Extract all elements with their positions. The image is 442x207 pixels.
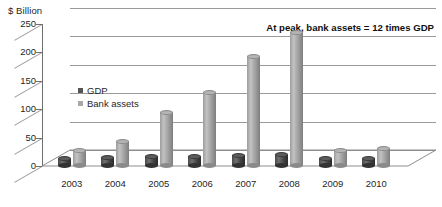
x-label-2006: 2006 — [182, 178, 222, 189]
bar-bank-assets-2003 — [73, 150, 86, 166]
bar-foot — [290, 163, 303, 168]
bar-bank-assets-2006 — [203, 92, 216, 166]
bar-foot — [116, 163, 129, 168]
bar-foot — [73, 163, 86, 168]
bar-body — [116, 141, 129, 166]
x-label-2004: 2004 — [95, 178, 135, 189]
bar-series-layer — [0, 0, 442, 207]
bar-foot — [247, 163, 260, 168]
bar-bank-assets-2007 — [247, 57, 260, 166]
bar-foot — [203, 163, 216, 168]
x-label-2008: 2008 — [269, 178, 309, 189]
bar-body — [203, 92, 216, 166]
bar-gdp-2005 — [145, 156, 158, 166]
bar-foot — [145, 163, 158, 168]
chart-container: $ Billion 050100150200250 At peak, bank … — [0, 0, 442, 207]
bar-bank-assets-2008 — [290, 33, 303, 166]
bar-body — [247, 57, 260, 166]
bar-foot — [58, 163, 71, 168]
bar-cap — [334, 148, 347, 153]
bar-cap — [232, 153, 245, 158]
bar-cap — [362, 156, 375, 161]
bar-gdp-2009 — [319, 159, 332, 166]
bar-cap — [188, 154, 201, 159]
bar-body — [160, 112, 173, 166]
bar-cap — [145, 154, 158, 159]
bar-foot — [377, 163, 390, 168]
bar-cap — [319, 156, 332, 161]
bar-gdp-2007 — [232, 155, 245, 166]
bar-foot — [275, 163, 288, 168]
x-label-2007: 2007 — [226, 178, 266, 189]
bar-cap — [73, 148, 86, 153]
bar-gdp-2004 — [101, 157, 114, 166]
bar-bank-assets-2010 — [377, 149, 390, 166]
x-label-2010: 2010 — [356, 178, 396, 189]
bar-gdp-2003 — [58, 159, 71, 166]
bar-foot — [319, 163, 332, 168]
bar-foot — [160, 163, 173, 168]
bar-cap — [116, 139, 129, 144]
bar-foot — [232, 163, 245, 168]
bar-foot — [101, 163, 114, 168]
bar-gdp-2006 — [188, 156, 201, 166]
bar-cap — [203, 90, 216, 95]
bar-bank-assets-2004 — [116, 141, 129, 166]
bar-gdp-2008 — [275, 155, 288, 166]
plot-area: 050100150200250 At peak, bank assets = 1… — [0, 0, 442, 207]
x-label-2009: 2009 — [313, 178, 353, 189]
x-label-2005: 2005 — [139, 178, 179, 189]
bar-cap — [58, 156, 71, 161]
bar-body — [290, 33, 303, 166]
bar-gdp-2010 — [362, 158, 375, 166]
x-label-2003: 2003 — [52, 178, 92, 189]
bar-foot — [362, 163, 375, 168]
bar-foot — [334, 163, 347, 168]
bar-foot — [188, 163, 201, 168]
bar-bank-assets-2009 — [334, 150, 347, 166]
bar-bank-assets-2005 — [160, 112, 173, 166]
bar-cap — [160, 110, 173, 115]
